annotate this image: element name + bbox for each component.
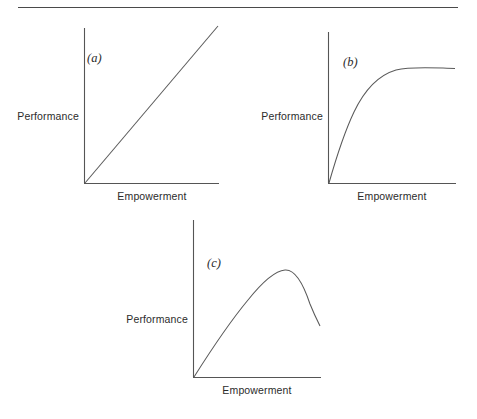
panel-c-x-axis-label: Empowerment — [201, 384, 313, 396]
panel-b-y-axis-label: Performance — [244, 110, 323, 122]
panel-a-curve — [85, 26, 218, 183]
figure-canvas: (a) Performance Empowerment (b) Performa… — [0, 0, 477, 419]
panel-b-curve — [329, 68, 455, 183]
panel-c-letter: (c) — [207, 256, 221, 271]
panel-b-plot — [240, 0, 477, 210]
panel-c-y-axis-label: Performance — [110, 313, 188, 325]
panel-c: (c) Performance Empowerment — [110, 210, 350, 419]
panel-a-plot — [0, 0, 240, 210]
panel-a-letter: (a) — [87, 51, 102, 66]
panel-b-x-axis-label: Empowerment — [336, 190, 448, 202]
panel-a: (a) Performance Empowerment — [0, 0, 240, 210]
panel-a-x-axis-label: Empowerment — [96, 190, 208, 202]
panel-a-y-axis-label: Performance — [0, 110, 79, 122]
panel-b-letter: (b) — [343, 55, 358, 70]
panel-b: (b) Performance Empowerment — [240, 0, 477, 210]
panel-c-curve — [194, 270, 320, 377]
